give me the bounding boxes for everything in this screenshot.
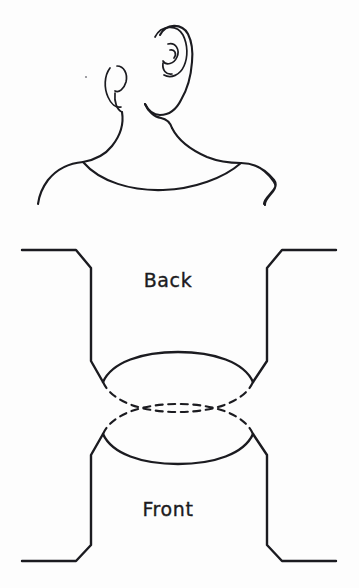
pattern-diagram-svg: Back Front (0, 0, 359, 588)
paper-speck (85, 76, 87, 78)
left-ear-outer (105, 68, 121, 107)
right-shoulder-slope (241, 163, 276, 205)
left-ear-inner (115, 66, 127, 92)
head-neck-shoulders-rear-view (38, 26, 276, 205)
front-label: Front (142, 498, 193, 520)
garment-pattern-pieces: Back Front (22, 250, 336, 561)
back-piece-right-outline (253, 250, 336, 382)
right-ear-lobe (163, 63, 172, 74)
right-ear-tragus (170, 50, 175, 58)
back-neck-curve (103, 352, 253, 382)
neckline-opening-curve (83, 162, 241, 190)
jawline (145, 104, 172, 128)
back-piece-left-outline (22, 250, 103, 382)
front-piece-right-outline (253, 434, 336, 561)
neck-right-contour (172, 128, 241, 163)
front-neck-hidden-curve (103, 404, 253, 434)
left-shoulder-slope (38, 162, 83, 204)
front-neck-curve (103, 434, 253, 464)
left-ear-lobe (115, 93, 122, 112)
neck-left-contour (83, 112, 123, 162)
back-neck-hidden-curve (103, 382, 253, 412)
pattern-illustration: Back Front (0, 0, 359, 588)
back-label: Back (144, 269, 193, 291)
front-piece-left-outline (22, 434, 103, 561)
